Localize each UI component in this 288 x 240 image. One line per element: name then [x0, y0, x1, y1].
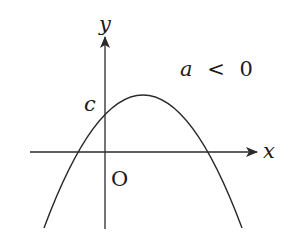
condition-value: 0	[240, 57, 253, 81]
parabola-curve	[44, 95, 242, 228]
origin-label: O	[111, 167, 128, 191]
x-axis-label: x	[263, 139, 275, 163]
condition-variable: a	[180, 57, 193, 81]
y-axis-label: y	[98, 12, 112, 36]
intercept-label-c: c	[84, 92, 96, 116]
condition-operator: <	[207, 57, 225, 81]
quadratic-graph: y x O c a < 0	[0, 0, 288, 240]
condition-label: a < 0	[180, 57, 253, 81]
